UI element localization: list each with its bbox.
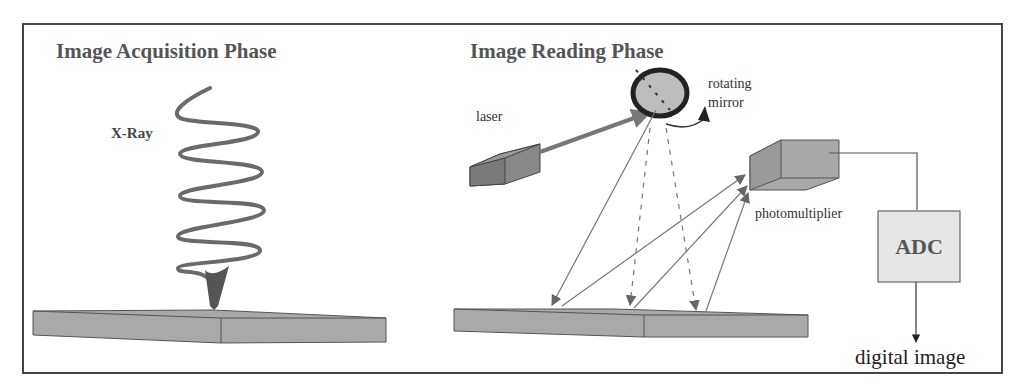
imaging-plate-acquisition — [33, 310, 386, 343]
acquisition-title: Image Acquisition Phase — [56, 39, 277, 63]
rotating-mirror — [633, 70, 687, 116]
digital-image-label: digital image — [855, 345, 965, 369]
adc-label: ADC — [895, 234, 943, 259]
laser-label: laser — [476, 109, 503, 124]
mirror-label-line2: mirror — [708, 95, 744, 110]
reading-title: Image Reading Phase — [470, 39, 664, 63]
xray-label: X-Ray — [111, 125, 153, 141]
photomultiplier-label: photomultiplier — [755, 206, 842, 221]
cr-imaging-diagram: Image Acquisition Phase X-Ray Image Read… — [0, 0, 1027, 389]
xray-wave-icon — [177, 88, 264, 285]
imaging-plate-reading — [454, 309, 808, 337]
laser-beam — [540, 113, 648, 152]
photomultiplier-unit — [750, 140, 839, 190]
mirror-label-line1: rotating — [708, 76, 752, 91]
reading-panel: Image Reading Phase laser rotating mirro… — [454, 39, 965, 369]
acquisition-panel: Image Acquisition Phase X-Ray — [33, 39, 386, 343]
pmt-adc-wire — [829, 153, 917, 210]
xray-arrowhead-icon — [205, 266, 229, 310]
laser-unit — [470, 144, 540, 186]
